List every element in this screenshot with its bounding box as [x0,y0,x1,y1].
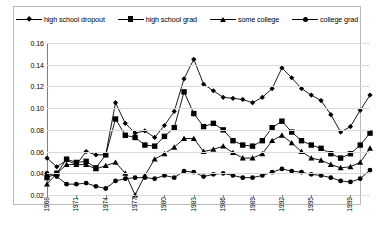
legend-label: high school grad [146,15,197,24]
legend-label: high school dropout [44,15,105,24]
x-axis-tick-label: 1986 [219,197,226,212]
x-axis-tick-label: 1989 [249,197,256,212]
x-axis-tick [164,195,165,198]
series-high-school-grad [44,89,372,180]
x-axis-labels: 1968197119741977198019831986198919921995… [47,197,370,231]
chart-legend: high school dropout high school grad som… [14,12,360,26]
x-axis-tick [194,195,195,198]
gridline [47,86,370,87]
legend-marker-circle-icon [292,16,318,23]
gridline [47,43,370,44]
x-axis-tick [253,195,254,198]
x-axis-tick-label: 1977 [131,197,138,212]
x-axis-tick-label: 1974 [102,197,109,212]
x-axis-tick [282,195,283,198]
y-axis-tick-label: 0.14 [30,61,44,68]
x-axis-tick [47,195,48,198]
y-axis-labels: 0.020.040.060.080.100.120.140.16 [14,43,44,195]
x-axis-tick [135,195,136,198]
legend-item-college-grad[interactable]: college grad [292,15,358,24]
x-axis-tick [223,195,224,198]
legend-item-high-school-grad[interactable]: high school grad [118,15,197,24]
series-svg [47,43,370,195]
y-axis-tick-label: 0.12 [30,83,44,90]
series-some-college [44,132,373,197]
gridline [47,152,370,153]
plot-area [47,43,370,195]
legend-label: college grad [320,15,358,24]
x-axis-tick-label: 1992 [278,197,285,212]
x-axis-tick [76,195,77,198]
x-axis-tick-label: 1980 [160,197,167,212]
x-axis-tick [350,195,351,198]
x-axis-tick [106,195,107,198]
legend-marker-triangle-icon [210,16,236,23]
legend-marker-square-icon [118,16,144,23]
gridline [47,173,370,174]
y-axis-tick-label: 0.08 [30,126,44,133]
y-axis-tick-label: 0.10 [30,105,44,112]
legend-marker-diamond-icon [16,16,42,23]
y-axis-tick-label: 0.06 [30,148,44,155]
y-axis-tick-label: 0.16 [30,40,44,47]
gridline [47,65,370,66]
x-axis-tick-label: 1983 [190,197,197,212]
x-axis-tick-label: 1995 [307,197,314,212]
x-axis-tick-label: 1971 [72,197,79,212]
x-axis-tick-label: 1999 [346,197,353,212]
legend-item-high-school-dropout[interactable]: high school dropout [16,15,105,24]
gridline [47,108,370,109]
y-axis-tick-label: 0.02 [30,192,44,199]
gridline [47,195,370,196]
legend-label: some college [238,15,279,24]
y-axis-tick-label: 0.04 [30,170,44,177]
chart-frame: high school dropout high school grad som… [13,6,361,205]
x-axis-tick [311,195,312,198]
x-axis-tick-label: 1968 [43,197,50,212]
gridline [47,130,370,131]
legend-item-some-college[interactable]: some college [210,15,279,24]
